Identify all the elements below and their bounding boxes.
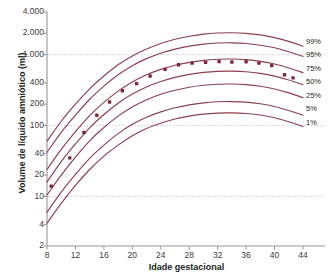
y-tick-label: 10 <box>0 192 44 201</box>
data-point <box>190 61 193 64</box>
y-tick-label: 2.000 <box>0 28 44 37</box>
data-point <box>148 74 151 77</box>
x-tick-label: 40 <box>263 250 287 260</box>
data-point <box>121 89 124 92</box>
legend-label-1pct: 1% <box>306 119 317 127</box>
percentile-curve-50pct <box>47 71 303 182</box>
percentile-curve-25pct <box>47 84 303 195</box>
y-tick-label: 100 <box>0 121 44 130</box>
data-point <box>270 64 273 67</box>
x-tick-label: 44 <box>291 250 315 260</box>
x-tick-label: 36 <box>234 250 258 260</box>
x-axis-title: Idade gestacional <box>44 262 329 272</box>
x-tick-label: 16 <box>92 250 116 260</box>
amniotic-fluid-volume-chart: Volume de líquido amniótico (ml) Idade g… <box>0 0 329 278</box>
legend-label-95pct: 95% <box>306 51 321 59</box>
data-point <box>204 61 207 64</box>
x-tick-label: 8 <box>35 250 59 260</box>
y-tick-label: 400 <box>0 78 44 87</box>
data-point <box>291 76 294 79</box>
data-point <box>217 60 220 63</box>
data-point <box>244 60 247 63</box>
y-tick-label: 2 <box>0 241 44 250</box>
x-tick-label: 24 <box>149 250 173 260</box>
x-tick-label: 12 <box>63 250 87 260</box>
data-point <box>108 100 111 103</box>
x-tick-label: 32 <box>206 250 230 260</box>
data-point <box>95 114 98 117</box>
legend-label-50pct: 50% <box>306 78 321 86</box>
y-tick-label: 200 <box>0 99 44 108</box>
x-tick-label: 28 <box>177 250 201 260</box>
percentile-curve-95pct <box>47 43 303 152</box>
data-point <box>257 61 260 64</box>
y-tick-label: 20 <box>0 170 44 179</box>
plot-area <box>0 0 329 278</box>
y-tick-label: 40 <box>0 149 44 158</box>
data-point <box>177 63 180 66</box>
data-point <box>68 156 71 159</box>
y-tick-label: 4.000 <box>0 7 44 16</box>
x-tick-label: 20 <box>120 250 144 260</box>
legend-label-75pct: 75% <box>306 65 321 73</box>
percentile-curve-5pct <box>47 102 303 213</box>
data-point <box>230 60 233 63</box>
data-point <box>283 73 286 76</box>
data-point <box>82 131 85 134</box>
data-point <box>163 68 166 71</box>
y-axis-tick-labels: 241020401002004001.0002.0004.000 <box>0 0 44 278</box>
percentile-curve-75pct <box>47 59 303 169</box>
data-point <box>50 184 53 187</box>
legend-label-5pct: 5% <box>306 105 317 113</box>
data-point <box>135 82 138 85</box>
legend-label-99pct: 99% <box>306 38 321 46</box>
percentile-curve-1pct <box>47 113 303 223</box>
y-tick-label: 4 <box>0 220 44 229</box>
legend-label-25pct: 25% <box>306 92 321 100</box>
y-tick-label: 1.000 <box>0 50 44 59</box>
